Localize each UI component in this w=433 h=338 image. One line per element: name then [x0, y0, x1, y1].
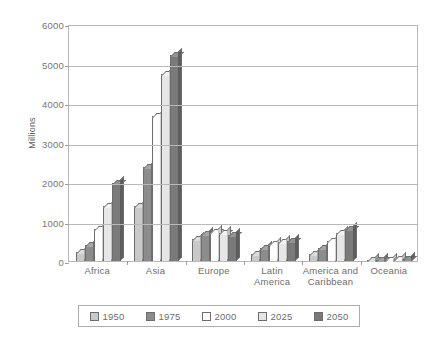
- y-axis-tick: [65, 263, 69, 264]
- bar-side-face: [236, 228, 240, 261]
- bar: [287, 241, 296, 261]
- x-axis-tick-label: Latin America: [254, 265, 290, 287]
- bar: [318, 248, 327, 261]
- bar: [309, 254, 318, 261]
- bar: [201, 234, 210, 261]
- bar: [228, 235, 237, 261]
- bar-set: [127, 26, 185, 261]
- y-axis-tick: [65, 66, 69, 67]
- bar-groups: [69, 26, 417, 261]
- bar-set: [302, 26, 360, 261]
- legend-label: 1975: [159, 311, 181, 322]
- legend-swatch-icon: [314, 312, 323, 321]
- bar: [367, 260, 376, 261]
- y-axis-tick-labels: 0100020003000400050006000: [22, 0, 64, 338]
- bar: [376, 260, 385, 261]
- bar: [152, 116, 161, 261]
- legend-item[interactable]: 1975: [146, 311, 181, 322]
- bar-side-face: [120, 176, 124, 261]
- bar: [134, 206, 143, 261]
- x-axis-tick-label: Asia: [146, 265, 165, 276]
- legend-swatch-icon: [258, 312, 267, 321]
- y-axis-tick-label: 2000: [42, 178, 64, 189]
- bar: [192, 239, 201, 261]
- plot-area: [68, 25, 418, 262]
- bar: [94, 229, 103, 261]
- y-axis-tick-label: 3000: [42, 138, 64, 149]
- bar-group: [127, 26, 185, 261]
- bar: [327, 241, 336, 262]
- bar: [143, 167, 152, 261]
- bar-group: [186, 26, 244, 261]
- legend-label: 2050: [327, 311, 349, 322]
- legend-label: 2000: [215, 311, 237, 322]
- y-axis-tick: [65, 145, 69, 146]
- bar: [278, 242, 287, 261]
- bar: [170, 55, 179, 261]
- bar-side-face: [295, 234, 299, 261]
- bar: [345, 229, 354, 261]
- y-axis-tick: [65, 224, 69, 225]
- bar-side-face: [353, 222, 357, 261]
- gridline: [69, 224, 417, 225]
- gridline: [69, 145, 417, 146]
- bar-set: [361, 26, 419, 261]
- bar-set: [69, 26, 127, 261]
- bar: [403, 259, 412, 261]
- y-axis-tick: [65, 26, 69, 27]
- bar: [76, 252, 85, 261]
- legend-swatch-icon: [90, 312, 99, 321]
- bar: [251, 254, 260, 261]
- x-axis-tick-label: Africa: [84, 265, 109, 276]
- bar-set: [186, 26, 244, 261]
- y-axis-tick-label: 5000: [42, 59, 64, 70]
- bar-group: [302, 26, 360, 261]
- bar: [112, 183, 121, 261]
- bar: [161, 74, 170, 261]
- x-axis-tick-label: Oceania: [370, 265, 407, 276]
- legend-swatch-icon: [202, 312, 211, 321]
- x-axis-tick-labels: AfricaAsiaEuropeLatin AmericaAmerica and…: [68, 265, 418, 295]
- x-axis-tick-label: Europe: [198, 265, 230, 276]
- legend-label: 2025: [271, 311, 293, 322]
- y-axis-tick-label: 4000: [42, 99, 64, 110]
- legend-item[interactable]: 2025: [258, 311, 293, 322]
- bar-side-face: [178, 48, 182, 261]
- x-axis-tick-label: America and Caribbean: [303, 265, 359, 287]
- chart-legend: 19501975200020252050: [78, 305, 360, 327]
- bar: [210, 232, 219, 261]
- legend-item[interactable]: 1950: [90, 311, 125, 322]
- bar-group: [69, 26, 127, 261]
- bar-group: [361, 26, 419, 261]
- y-axis-tick: [65, 105, 69, 106]
- y-axis-tick: [65, 184, 69, 185]
- bar-set: [244, 26, 302, 261]
- legend-swatch-icon: [146, 312, 155, 321]
- bar-group: [244, 26, 302, 261]
- bar: [103, 206, 112, 261]
- bar: [269, 244, 278, 261]
- y-axis-tick-label: 1000: [42, 217, 64, 228]
- y-axis-tick-label: 0: [59, 257, 64, 268]
- population-bar-chart: Millions 0100020003000400050006000 Afric…: [0, 0, 433, 338]
- legend-label: 1950: [103, 311, 125, 322]
- bar: [260, 248, 269, 261]
- gridline: [69, 66, 417, 67]
- legend-item[interactable]: 2000: [202, 311, 237, 322]
- gridline: [69, 184, 417, 185]
- bar: [85, 245, 94, 261]
- y-axis-tick-label: 6000: [42, 20, 64, 31]
- legend-item[interactable]: 2050: [314, 311, 349, 322]
- gridline: [69, 105, 417, 106]
- bar: [336, 233, 345, 261]
